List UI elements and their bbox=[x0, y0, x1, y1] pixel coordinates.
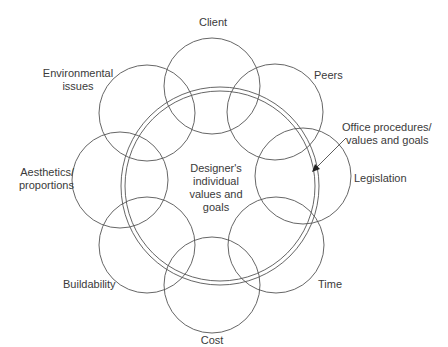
arrow-office-procedures bbox=[312, 138, 346, 172]
label-environmental: Environmental issues bbox=[38, 67, 118, 93]
label-cost: Cost bbox=[194, 334, 230, 347]
circle-client bbox=[164, 38, 260, 134]
circle-peers bbox=[227, 64, 323, 160]
label-time: Time bbox=[318, 278, 342, 291]
label-office-procedures: Office procedures/ values and goals bbox=[342, 121, 432, 147]
label-peers: Peers bbox=[314, 69, 343, 82]
label-designer-values: Designer's individual values and goals bbox=[171, 162, 261, 214]
label-aesthetics: Aesthetics/ proportions bbox=[12, 166, 74, 192]
label-legislation: Legislation bbox=[354, 172, 407, 185]
label-buildability: Buildability bbox=[63, 278, 116, 291]
label-client: Client bbox=[192, 16, 234, 29]
circle-legislation bbox=[255, 128, 351, 224]
circle-aesthetics bbox=[72, 132, 168, 228]
